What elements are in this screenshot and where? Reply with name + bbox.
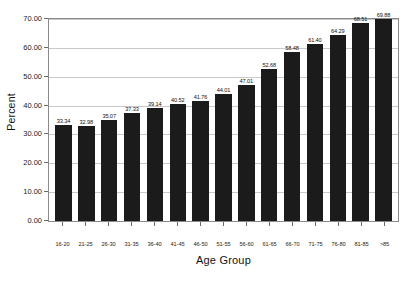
x-axis-tick-marks [48,222,399,226]
x-axis-tick-mark [384,222,385,226]
bar: 37.33 [124,113,140,221]
bar: 52.68 [261,69,277,221]
bar-slot: 40.52 [166,19,189,221]
y-axis-tick-label: 10.00 [2,187,42,196]
x-axis-tick-slot [51,222,74,226]
x-axis-tick-label: 66-70 [281,241,304,247]
y-axis-tick-mark [44,133,48,134]
y-axis-tick-mark [44,220,48,221]
bar-value-label: 61.40 [308,37,322,44]
y-axis-tick-label: 30.00 [2,129,42,138]
x-axis-tick-mark [108,222,109,226]
x-axis-tick-label: 46-50 [189,241,212,247]
bar-slot: 37.33 [121,19,144,221]
x-axis-tick-mark [85,222,86,226]
bar-slot: 68.51 [349,19,372,221]
bar: 69.88 [375,19,391,221]
bar-value-label: 47.01 [240,78,254,85]
x-axis-tick-mark [154,222,155,226]
x-axis-tick-mark [223,222,224,226]
bar: 39.14 [147,108,163,221]
y-axis-tick-mark [44,191,48,192]
x-axis-tick-mark [361,222,362,226]
y-axis-tick-mark [44,105,48,106]
y-axis-tick-mark [44,18,48,19]
bar-value-label: 69.88 [377,12,391,19]
bar: 68.51 [352,23,368,221]
x-axis-tick-slot [350,222,373,226]
x-axis-tick-label: 41-45 [166,241,189,247]
y-axis-tick-mark [44,162,48,163]
bar-slot: 35.07 [98,19,121,221]
bar-slot: 69.88 [372,19,395,221]
bar: 61.40 [307,44,323,221]
bar-chart: Percent 33.3432.9835.0737.3339.1440.5241… [0,0,407,282]
bar-slot: 52.68 [258,19,281,221]
x-axis-tick-slot [235,222,258,226]
x-axis-tick-mark [292,222,293,226]
x-axis-tick-label: >85 [373,241,396,247]
x-axis-tick-label: 51-55 [212,241,235,247]
x-axis-tick-label: 56-60 [235,241,258,247]
bar-slot: 47.01 [235,19,258,221]
x-axis-tick-mark [315,222,316,226]
bar-value-label: 32.98 [80,119,94,126]
bar-value-label: 35.07 [102,113,116,120]
x-axis-tick-label: 26-30 [97,241,120,247]
bar-value-label: 39.14 [148,101,162,108]
bar-value-label: 68.51 [354,16,368,23]
bar-value-label: 41.76 [194,94,208,101]
x-axis-tick-label: 61-65 [258,241,281,247]
x-axis-tick-slot [258,222,281,226]
bar: 47.01 [238,85,254,221]
x-axis-tick-label: 16-20 [51,241,74,247]
y-axis-title-text: Percent [5,93,17,131]
bar-value-label: 58.48 [285,45,299,52]
y-axis-tick-label: 0.00 [2,216,42,225]
bar: 41.76 [192,101,208,222]
plot-area: 33.3432.9835.0737.3339.1440.5241.7644.01… [48,18,399,222]
bar-slot: 39.14 [143,19,166,221]
bar-slot: 61.40 [303,19,326,221]
y-axis-tick-label: 20.00 [2,158,42,167]
bar-slot: 44.01 [212,19,235,221]
bar-value-label: 37.33 [125,106,139,113]
x-axis-tick-mark [131,222,132,226]
x-axis-tick-slot [166,222,189,226]
x-axis-tick-labels: 16-2021-2526-3031-3536-4041-4546-5051-55… [48,241,399,247]
bar-slot: 58.48 [281,19,304,221]
bar: 32.98 [78,126,94,221]
x-axis-tick-slot [373,222,396,226]
y-axis-tick-label: 60.00 [2,42,42,51]
x-axis-tick-mark [177,222,178,226]
bar-slot: 64.29 [326,19,349,221]
x-axis-tick-label: 76-80 [327,241,350,247]
bar-slot: 33.34 [52,19,75,221]
x-axis-tick-label: 81-85 [350,241,373,247]
x-axis-tick-slot [97,222,120,226]
y-axis-tick-mark [44,76,48,77]
x-axis-tick-label: 71-75 [304,241,327,247]
bar-series: 33.3432.9835.0737.3339.1440.5241.7644.01… [49,19,398,221]
x-axis-tick-label: 36-40 [143,241,166,247]
x-axis-tick-mark [246,222,247,226]
bar: 44.01 [215,94,231,221]
x-axis-tick-slot [304,222,327,226]
bar: 33.34 [55,125,71,221]
x-axis-tick-slot [74,222,97,226]
bar: 35.07 [101,120,117,221]
bar-value-label: 52.68 [262,62,276,69]
x-axis-tick-mark [62,222,63,226]
x-axis-tick-mark [338,222,339,226]
bar-value-label: 40.52 [171,97,185,104]
bar-slot: 41.76 [189,19,212,221]
y-axis-tick-label: 50.00 [2,71,42,80]
bar-value-label: 64.29 [331,28,345,35]
bar: 64.29 [330,35,346,221]
y-axis-tick-label: 70.00 [2,14,42,23]
bar: 40.52 [170,104,186,221]
y-axis-tick-label: 40.00 [2,100,42,109]
bar-value-label: 44.01 [217,87,231,94]
x-axis-tick-slot [281,222,304,226]
x-axis-tick-label: 31-35 [120,241,143,247]
